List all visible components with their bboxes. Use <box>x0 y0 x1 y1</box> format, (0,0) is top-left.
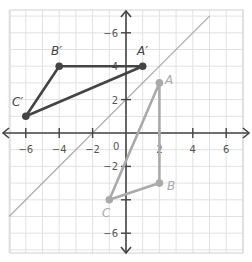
triangle-a-prime-b-prime-c-prime <box>26 66 143 116</box>
vertex-point <box>22 113 30 121</box>
vertex-point <box>55 62 63 70</box>
vertex-point <box>156 79 164 87</box>
label-c: C <box>102 206 111 220</box>
origin-label: 0 <box>113 141 119 152</box>
vertex-point <box>156 179 164 187</box>
x-tick-label: 6 <box>223 144 229 155</box>
x-tick-label: 4 <box>190 144 196 155</box>
vertex-point <box>139 62 147 70</box>
coordinate-plane: −6−4−2246−642−2−6 0 A B C A′ B′ C′ <box>0 0 252 262</box>
label-b: B <box>167 179 175 193</box>
label-a: A <box>164 73 173 87</box>
y-tick-label: −6 <box>103 228 118 239</box>
x-tick-label: −2 <box>85 144 100 155</box>
label-a-prime: A′ <box>136 44 148 58</box>
label-c-prime: C′ <box>12 95 23 109</box>
y-tick-label: 2 <box>112 95 118 106</box>
vertex-point <box>106 196 114 204</box>
x-tick-label: −6 <box>18 144 33 155</box>
y-tick-label: −6 <box>103 28 118 39</box>
x-tick-label: −4 <box>52 144 67 155</box>
y-tick-label: −2 <box>103 161 118 172</box>
label-b-prime: B′ <box>51 44 62 58</box>
